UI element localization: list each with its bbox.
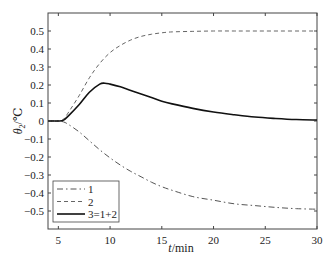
y-tick-label: 0.2	[30, 79, 44, 91]
x-tick-label: 5	[56, 234, 62, 246]
x-tick-label: 15	[156, 234, 168, 246]
y-tick-label: 0	[39, 115, 45, 127]
x-tick-label: 20	[208, 234, 220, 246]
legend-label-2: 2	[88, 196, 94, 208]
x-tick-label: 25	[260, 234, 272, 246]
y-tick-label: −0.4	[24, 187, 44, 199]
y-tick-label: −0.5	[24, 205, 44, 217]
legend: 123=1+2	[53, 181, 119, 222]
series-line-2	[48, 31, 317, 121]
y-tick-label: 0.1	[30, 97, 44, 109]
y-axis-label: θ2/℃	[11, 108, 27, 135]
y-tick-label: −0.1	[24, 133, 44, 145]
y-tick-label: 0.3	[30, 61, 44, 73]
x-tick-label: 30	[312, 234, 324, 246]
x-axis-label: t/min	[168, 241, 193, 255]
legend-label-1: 1	[88, 183, 94, 195]
series-line-3	[48, 83, 317, 121]
x-tick-label: 10	[105, 234, 117, 246]
y-tick-label: −0.3	[24, 169, 44, 181]
y-tick-label: −0.2	[24, 151, 44, 163]
y-tick-label: 0.4	[30, 43, 44, 55]
legend-label-3: 3=1+2	[88, 208, 117, 220]
y-tick-label: 0.5	[30, 25, 44, 37]
line-chart: 51015202530 0.50.40.30.20.10−0.1−0.2−0.3…	[0, 0, 333, 270]
